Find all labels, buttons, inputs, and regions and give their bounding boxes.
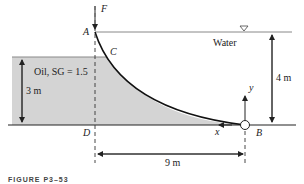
free-surface-icon — [240, 26, 248, 31]
label-water-depth: 4 m — [276, 73, 291, 83]
hinge-b — [241, 121, 250, 130]
label-oil-depth: 3 m — [26, 86, 41, 96]
label-point-b: B — [256, 128, 262, 138]
label-oil: Oil, SG = 1.5 — [34, 67, 88, 77]
label-span: 9 m — [165, 158, 180, 168]
figure-caption: FIGURE P3–53 — [8, 176, 69, 183]
label-force: F — [101, 4, 107, 14]
gate-diagram — [0, 0, 304, 184]
label-axis-x: x — [215, 127, 219, 137]
label-water: Water — [213, 38, 237, 48]
label-axis-y: y — [249, 83, 253, 93]
label-point-a: A — [83, 27, 89, 37]
label-point-d: D — [83, 128, 90, 138]
label-point-c: C — [110, 47, 117, 57]
